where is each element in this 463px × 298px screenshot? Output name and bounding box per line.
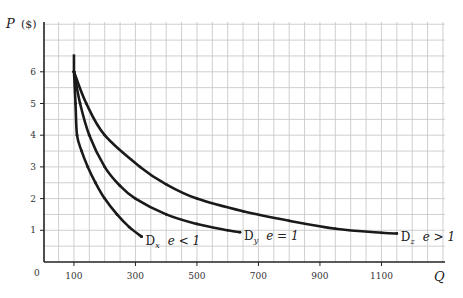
curve-point bbox=[128, 226, 131, 229]
curve-point bbox=[288, 219, 291, 222]
y-ticks: 123456 bbox=[30, 67, 44, 236]
x-ticks: 1003005007009001100 bbox=[65, 262, 393, 281]
y-tick-label: 5 bbox=[30, 99, 36, 109]
curve-label-dz: Dze > 1 bbox=[401, 230, 455, 246]
y-tick-label: 1 bbox=[30, 225, 36, 235]
curve-point bbox=[103, 134, 106, 137]
curve-point bbox=[80, 150, 83, 153]
curve-point bbox=[73, 70, 76, 73]
curve-label-dy: Dye = 1 bbox=[244, 229, 299, 245]
x-tick-label: 100 bbox=[65, 271, 82, 281]
grid bbox=[44, 22, 445, 262]
curve-point bbox=[119, 185, 122, 188]
curve-point bbox=[86, 166, 89, 169]
curve-point bbox=[139, 166, 142, 169]
curve-point bbox=[239, 231, 242, 234]
curve-point bbox=[380, 231, 383, 234]
x-axis-title: Q bbox=[434, 269, 445, 284]
curve-point bbox=[94, 181, 97, 184]
curve-point bbox=[242, 210, 245, 213]
curve-label-dx: Dxe < 1 bbox=[146, 234, 201, 250]
curve-point bbox=[85, 102, 88, 105]
origin-label: 0 bbox=[34, 268, 40, 278]
y-tick-label: 6 bbox=[30, 67, 36, 77]
curve-dz bbox=[74, 72, 397, 234]
curve-point bbox=[76, 134, 79, 137]
demand-curves bbox=[73, 54, 399, 238]
x-tick-label: 900 bbox=[311, 271, 328, 281]
curve-point bbox=[334, 227, 337, 230]
demand-elasticity-chart: 1003005007009001100 123456 0 P ($) Q Dxe… bbox=[0, 0, 463, 298]
y-tick-label: 4 bbox=[30, 130, 36, 140]
curve-point bbox=[196, 223, 199, 226]
curve-point bbox=[116, 213, 119, 216]
curve-point bbox=[395, 232, 398, 235]
x-tick-label: 1100 bbox=[370, 271, 393, 281]
y-axis-unit: ($) bbox=[21, 18, 37, 31]
curve-point bbox=[103, 166, 106, 169]
curve-point bbox=[165, 213, 168, 216]
curve-point bbox=[134, 197, 137, 200]
axes bbox=[44, 22, 445, 262]
y-tick-label: 2 bbox=[30, 194, 36, 204]
y-tick-label: 3 bbox=[30, 162, 36, 172]
curve-point bbox=[140, 235, 143, 238]
curve-dy bbox=[74, 72, 240, 232]
curve-point bbox=[103, 197, 106, 200]
curve-point bbox=[79, 102, 82, 105]
curve-point bbox=[74, 102, 77, 105]
curve-point bbox=[88, 134, 91, 137]
x-tick-label: 500 bbox=[188, 271, 205, 281]
curve-point bbox=[196, 197, 199, 200]
x-tick-label: 700 bbox=[250, 271, 267, 281]
curve-point bbox=[165, 183, 168, 186]
curve-point bbox=[226, 229, 229, 232]
y-axis-title: P bbox=[5, 16, 15, 31]
x-tick-label: 300 bbox=[127, 271, 144, 281]
